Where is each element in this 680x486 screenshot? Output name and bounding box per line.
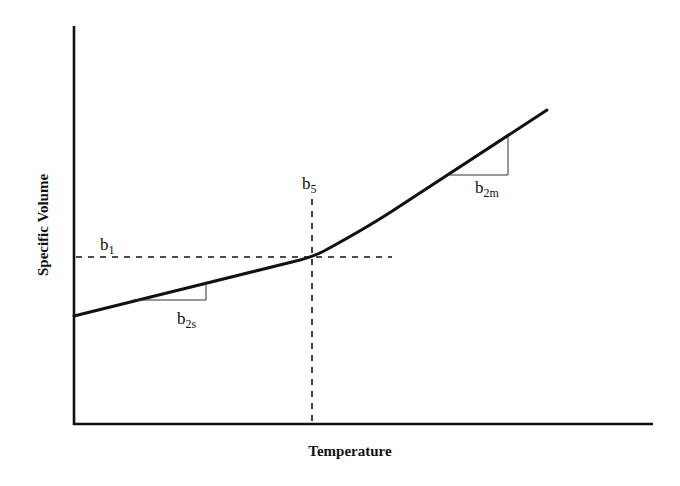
b2s-label: b2s: [177, 309, 197, 331]
diagram-canvas: b1 b5 b2s b2m Temperature Specific Volum…: [0, 0, 680, 486]
b5-label: b5: [302, 174, 317, 196]
b1-label: b1: [100, 235, 115, 257]
volume-temperature-curve: [74, 110, 547, 316]
b2m-label: b2m: [475, 178, 500, 200]
x-axis-label: Temperature: [308, 443, 392, 459]
y-axis-label: Specific Volume: [35, 174, 51, 276]
